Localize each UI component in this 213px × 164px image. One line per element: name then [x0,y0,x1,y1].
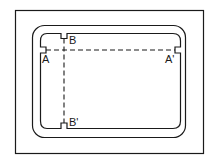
section-diagram: A A' B B' [0,0,213,164]
outer-rounded-frame [33,26,186,138]
label-b: B [69,34,76,46]
label-a-prime: A' [165,53,174,65]
label-b-prime: B' [69,116,78,128]
inner-notched-frame [41,34,181,129]
outer-border [16,11,204,154]
label-a: A [42,53,50,65]
